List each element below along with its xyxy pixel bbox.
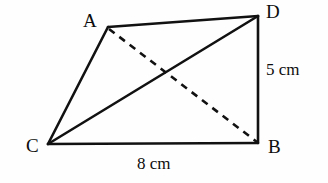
vertex-label-d: D — [266, 2, 280, 21]
dimension-label-cb: 8 cm — [137, 155, 171, 172]
diagonal-A-B — [109, 29, 257, 142]
dimension-label-db: 5 cm — [266, 61, 300, 78]
vertex-label-a: A — [83, 11, 97, 30]
vertex-label-c: C — [26, 136, 39, 155]
edge-A-D — [108, 16, 258, 27]
geometry-figure-canvas: A D C B 5 cm 8 cm — [0, 0, 328, 183]
edge-C-B — [48, 143, 258, 144]
vertex-label-b: B — [268, 137, 281, 156]
